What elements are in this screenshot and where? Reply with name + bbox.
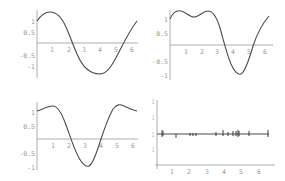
y-tick-labels: 1 0.5 -0.5 -1 <box>19 18 35 71</box>
y-tick-labels: 1 0.5 -0.5 -1 <box>19 109 35 172</box>
svg-text:1: 1 <box>151 98 155 106</box>
svg-text:3: 3 <box>215 48 219 56</box>
curve-f2 <box>170 11 269 74</box>
svg-text:2: 2 <box>67 142 71 150</box>
svg-text:1: 1 <box>170 168 174 176</box>
svg-text:6: 6 <box>257 168 261 176</box>
svg-text:2: 2 <box>67 46 71 54</box>
svg-text:0.5: 0.5 <box>23 123 35 131</box>
svg-text:1: 1 <box>31 109 35 117</box>
svg-text:6: 6 <box>130 46 134 54</box>
svg-text:3: 3 <box>205 168 209 176</box>
svg-text:-1: -1 <box>27 63 35 71</box>
svg-text:1: 1 <box>31 18 35 26</box>
svg-text:1: 1 <box>50 46 54 54</box>
svg-text:1: 1 <box>184 48 188 56</box>
y-tick-labels: 1 0.5 -0.5 -1 <box>152 16 168 80</box>
svg-text:1: 1 <box>51 142 55 150</box>
plot-top-left: 1 2 3 4 5 6 1 0.5 -0.5 -1 <box>0 0 145 90</box>
svg-text:3: 3 <box>83 142 87 150</box>
svg-text:3: 3 <box>82 46 86 54</box>
svg-text:-0.5: -0.5 <box>152 58 168 66</box>
svg-text:0.5: 0.5 <box>23 29 35 37</box>
svg-text:-1: -1 <box>27 164 35 172</box>
plot-bottom-right: 1 1 2 3 4 5 6 1 1 1 1 <box>145 90 285 181</box>
curve-f3 <box>37 105 137 166</box>
svg-text:-1: -1 <box>160 72 168 80</box>
svg-text:4: 4 <box>98 46 102 54</box>
svg-text:4: 4 <box>231 48 235 56</box>
svg-text:1: 1 <box>151 146 155 154</box>
svg-text:5: 5 <box>114 46 118 54</box>
y-tick-labels: 1 1 1 1 <box>151 98 155 154</box>
plot-bottom-left: 1 2 3 4 5 6 1 0.5 -0.5 -1 <box>0 90 145 181</box>
svg-text:2: 2 <box>187 168 191 176</box>
svg-text:4: 4 <box>222 168 226 176</box>
svg-text:-0.5: -0.5 <box>19 52 35 60</box>
svg-text:1: 1 <box>151 131 155 139</box>
svg-text:6: 6 <box>263 48 267 56</box>
svg-text:0.5: 0.5 <box>156 30 168 38</box>
x-tick-labels: 1 2 3 4 5 6 <box>51 142 135 150</box>
svg-text:6: 6 <box>131 142 135 150</box>
plot-top-right: 1 2 3 4 5 6 1 0.5 -0.5 -1 <box>145 0 285 90</box>
svg-text:-0.5: -0.5 <box>19 150 35 158</box>
svg-text:1: 1 <box>151 114 155 122</box>
svg-text:1: 1 <box>164 16 168 24</box>
svg-text:2: 2 <box>200 48 204 56</box>
svg-text:5: 5 <box>115 142 119 150</box>
x-tick-labels: 1 1 2 3 4 5 6 <box>170 168 261 176</box>
svg-text:5: 5 <box>239 168 243 176</box>
